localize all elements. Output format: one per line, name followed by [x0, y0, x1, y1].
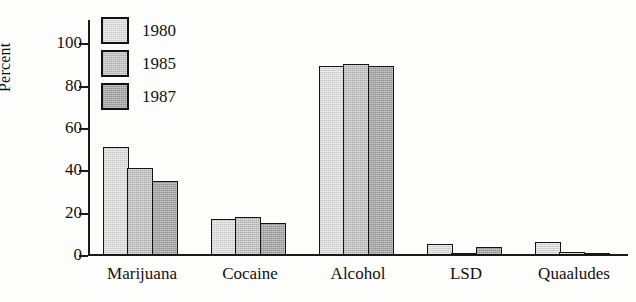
legend-swatch-1980 — [101, 17, 129, 44]
category-label-alcohol: Alcohol — [331, 264, 386, 284]
legend-item-1987: 1987 — [101, 80, 176, 113]
legend-swatch-1987 — [101, 83, 129, 110]
bar-lsd-1987 — [476, 247, 502, 255]
bar-lsd-1985 — [451, 253, 477, 255]
bar-quaaludes-1980 — [535, 242, 561, 255]
bar-group-alcohol — [319, 22, 397, 255]
bar-group-cocaine — [211, 22, 289, 255]
y-tick-label: 100 — [57, 33, 83, 53]
bar-quaaludes-1985 — [559, 252, 585, 255]
bar-alcohol-1985 — [343, 64, 369, 255]
category-label-marijuana: Marijuana — [107, 264, 177, 284]
legend-label-1980: 1980 — [142, 21, 176, 41]
bar-group-quaaludes — [535, 22, 613, 255]
category-label-lsd: LSD — [450, 264, 482, 284]
y-tick-label: 0 — [74, 245, 83, 265]
legend-item-1985: 1985 — [101, 47, 176, 80]
y-tick-label: 20 — [65, 203, 82, 223]
bar-chart-figure: Percent 020406080100 MarijuanaCocaineAlc… — [0, 0, 636, 302]
bar-alcohol-1987 — [368, 66, 394, 255]
legend-label-1985: 1985 — [142, 54, 176, 74]
bar-quaaludes-1987 — [584, 253, 610, 255]
bar-cocaine-1987 — [260, 223, 286, 255]
y-axis-label: Percent — [0, 43, 14, 92]
bar-alcohol-1980 — [319, 66, 345, 255]
category-label-cocaine: Cocaine — [222, 264, 278, 284]
category-label-quaaludes: Quaaludes — [538, 264, 610, 284]
legend-label-1987: 1987 — [142, 87, 176, 107]
y-tick-label: 80 — [65, 76, 82, 96]
y-tick-label: 60 — [65, 118, 82, 138]
bar-cocaine-1985 — [235, 217, 261, 255]
bar-marijuana-1985 — [127, 168, 153, 255]
bar-cocaine-1980 — [211, 219, 237, 255]
bar-lsd-1980 — [427, 244, 453, 255]
y-tick-label: 40 — [65, 160, 82, 180]
bar-group-lsd — [427, 22, 505, 255]
chart-legend: 198019851987 — [101, 14, 176, 113]
legend-item-1980: 1980 — [101, 14, 176, 47]
legend-swatch-1985 — [101, 50, 129, 77]
bar-marijuana-1980 — [103, 147, 129, 255]
bar-marijuana-1987 — [152, 181, 178, 255]
